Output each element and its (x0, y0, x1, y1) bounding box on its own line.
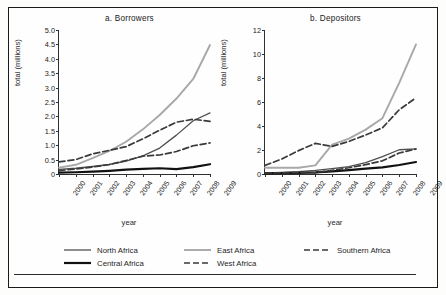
figure-root: a. Borrowers total (millions) 00.51.01.5… (0, 0, 446, 295)
x-tick-label: 2002 (104, 179, 121, 197)
series-line-east-africa (59, 45, 210, 168)
legend-divider (14, 274, 416, 275)
x-tick-label: 2000 (277, 179, 294, 197)
chart-legend: North AfricaCentral AfricaEast AfricaWes… (14, 243, 416, 275)
y-tick-label: 0 (51, 170, 55, 179)
x-tick-mark (299, 174, 300, 177)
y-tick-label: 4.0 (45, 54, 55, 63)
x-tick-label: 2006 (377, 179, 394, 197)
x-tick-label: 2005 (155, 179, 172, 197)
y-tick-label: 0 (257, 170, 261, 179)
series-line-north-africa (59, 113, 210, 169)
x-tick-label: 2002 (310, 179, 327, 197)
plot-area-a: 00.51.01.52.02.53.03.54.04.55.0200020012… (58, 30, 210, 175)
legend-line-swatch (184, 258, 211, 268)
legend-item-label: Central Africa (97, 259, 144, 268)
y-tick-label: 1.0 (45, 141, 55, 150)
legend-item-west-africa[interactable]: West Africa (184, 257, 256, 269)
series-lines (59, 30, 210, 174)
y-tick-label: 8 (257, 74, 261, 83)
y-tick-label: 10 (253, 50, 261, 59)
legend-line-swatch (184, 245, 211, 255)
x-tick-mark (109, 174, 110, 177)
x-tick-label: 2003 (121, 179, 138, 197)
x-tick-mark (160, 174, 161, 177)
series-line-east-africa (265, 44, 416, 167)
x-tick-mark (126, 174, 127, 177)
y-tick-label: 6 (257, 98, 261, 107)
chart-panel-a: a. Borrowers total (millions) 00.51.01.5… (14, 14, 219, 234)
x-tick-label: 2006 (171, 179, 188, 197)
x-tick-mark (416, 174, 417, 177)
x-tick-mark (282, 174, 283, 177)
x-tick-label: 2001 (88, 179, 105, 197)
legend-item-label: West Africa (217, 259, 256, 268)
chart-panel-b: b. Depositors total (millions) 024681012… (220, 14, 425, 234)
x-tick-label: 2000 (71, 179, 88, 197)
y-tick-label: 0.5 (45, 155, 55, 164)
y-tick-label: 4.5 (45, 40, 55, 49)
legend-line-swatch (64, 258, 91, 268)
y-tick-label: 3.0 (45, 83, 55, 92)
x-tick-mark (93, 174, 94, 177)
x-tick-label: 2001 (294, 179, 311, 197)
series-lines (265, 30, 416, 174)
x-tick-label: 2003 (327, 179, 344, 197)
x-tick-mark (349, 174, 350, 177)
x-tick-mark (193, 174, 194, 177)
x-tick-mark (366, 174, 367, 177)
x-tick-label: 2005 (361, 179, 378, 197)
chart-title-b: b. Depositors (220, 14, 425, 23)
x-tick-label: 2004 (344, 179, 361, 197)
x-axis-label-a: year (54, 218, 204, 227)
y-tick-label: 2.0 (45, 112, 55, 121)
legend-item-label: North Africa (97, 246, 138, 255)
y-tick-label: 1.5 (45, 126, 55, 135)
x-tick-mark (76, 174, 77, 177)
x-tick-label: 2004 (138, 179, 155, 197)
y-tick-label: 3.5 (45, 69, 55, 78)
legend-item-label: Southern Africa (337, 246, 390, 255)
x-tick-mark (315, 174, 316, 177)
legend-item-north-africa[interactable]: North Africa (64, 244, 138, 256)
legend-item-central-africa[interactable]: Central Africa (64, 257, 144, 269)
x-tick-mark (265, 174, 266, 177)
x-tick-mark (382, 174, 383, 177)
y-tick-label: 4 (257, 122, 261, 131)
legend-line-swatch (64, 245, 91, 255)
y-tick-label: 12 (253, 26, 261, 35)
legend-line-swatch (304, 245, 331, 255)
x-axis-label-b: year (260, 218, 410, 227)
y-axis-label-a: total (millions) (13, 39, 22, 86)
x-tick-label: 2007 (188, 179, 205, 197)
x-tick-label: 2007 (394, 179, 411, 197)
legend-item-southern-africa[interactable]: Southern Africa (304, 244, 390, 256)
y-tick-label: 2 (257, 146, 261, 155)
plot-area-b: 0246810122000200120022003200420052006200… (264, 30, 416, 175)
y-axis-label-b: total (millions) (219, 39, 228, 86)
y-tick-label: 2.5 (45, 98, 55, 107)
chart-title-a: a. Borrowers (14, 14, 219, 23)
legend-item-label: East Africa (217, 246, 254, 255)
x-tick-mark (399, 174, 400, 177)
y-tick-label: 5.0 (45, 26, 55, 35)
legend-item-east-africa[interactable]: East Africa (184, 244, 254, 256)
x-tick-mark (210, 174, 211, 177)
x-tick-mark (59, 174, 60, 177)
x-tick-mark (332, 174, 333, 177)
x-tick-mark (143, 174, 144, 177)
x-tick-mark (176, 174, 177, 177)
